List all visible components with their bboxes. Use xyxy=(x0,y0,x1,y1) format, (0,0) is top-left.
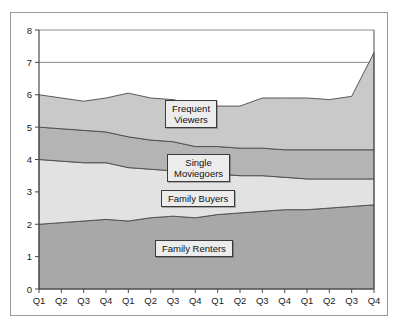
x-tick-label: Q1 xyxy=(33,295,46,306)
series-label-single-moviegoers-line1: Single xyxy=(174,157,223,168)
series-label-single-moviegoers: Single Moviegoers xyxy=(167,154,230,182)
y-tick-label: 1 xyxy=(27,251,32,262)
series-label-single-moviegoers-line2: Moviegoers xyxy=(174,168,223,179)
y-tick-label: 8 xyxy=(27,25,32,36)
x-tick-label: Q1 xyxy=(301,295,314,306)
series-label-family-renters: Family Renters xyxy=(155,240,233,257)
y-tick-label: 3 xyxy=(27,186,32,197)
x-tick-label: Q4 xyxy=(368,295,381,306)
x-tick-label: Q3 xyxy=(256,295,269,306)
y-tick-label: 0 xyxy=(27,284,32,295)
x-tick-label: Q1 xyxy=(122,295,135,306)
series-label-frequent-viewers-line1: Frequent xyxy=(172,103,210,114)
x-tick-label: Q4 xyxy=(189,295,202,306)
x-tick-label: Q3 xyxy=(345,295,358,306)
series-label-family-buyers: Family Buyers xyxy=(161,190,235,207)
y-tick-label: 5 xyxy=(27,122,32,133)
x-tick-label: Q2 xyxy=(144,295,157,306)
x-tick-label: Q1 xyxy=(211,295,224,306)
x-tick-label: Q2 xyxy=(323,295,336,306)
y-tick-label: 7 xyxy=(27,57,32,68)
x-tick-label: Q3 xyxy=(77,295,90,306)
x-tick-label: Q3 xyxy=(167,295,180,306)
series-label-frequent-viewers: Frequent Viewers xyxy=(165,100,217,128)
x-tick-label: Q2 xyxy=(234,295,247,306)
x-tick-label: Q4 xyxy=(278,295,291,306)
y-tick-label: 6 xyxy=(27,89,32,100)
series-label-frequent-viewers-line2: Viewers xyxy=(172,114,210,125)
y-tick-label: 2 xyxy=(27,219,32,230)
y-tick-label: 4 xyxy=(27,154,32,165)
x-tick-label: Q2 xyxy=(55,295,68,306)
x-tick-label: Q4 xyxy=(100,295,113,306)
